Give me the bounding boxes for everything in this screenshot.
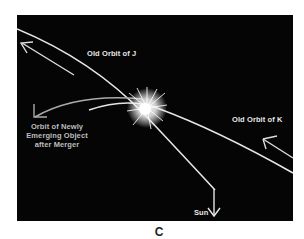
space-panel: Old Orbit of J Old Orbit of K Orbit of N… (17, 15, 293, 221)
figure-caption: C (152, 225, 166, 239)
old-orbit-j-label: Old Orbit of J (87, 50, 136, 59)
arrowhead-icon (34, 104, 47, 117)
new-object-orbit-line (35, 98, 142, 117)
new-object-orbit-label: Orbit of Newly Emerging Object after Mer… (17, 122, 97, 149)
old-orbit-k-label: Old Orbit of K (232, 116, 283, 125)
old-orbit-k-line (89, 103, 293, 173)
old-orbit-k-arrow (263, 139, 293, 158)
sun-label: Sun (194, 209, 208, 218)
old-orbit-j-arrow (22, 43, 74, 75)
merger-core (139, 103, 151, 115)
diagram-figure: Old Orbit of J Old Orbit of K Orbit of N… (0, 0, 304, 239)
